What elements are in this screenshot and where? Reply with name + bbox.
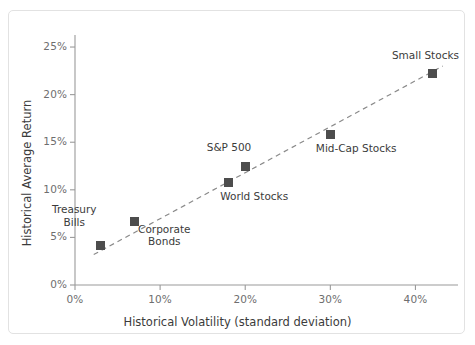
x-axis-tick-label: 0% — [50, 293, 100, 305]
y-axis-tick-label: 0% — [23, 278, 67, 290]
data-point-marker[interactable] — [96, 241, 105, 250]
data-point-label: Mid-Cap Stocks — [316, 142, 397, 155]
x-axis-tick-label: 30% — [305, 293, 355, 305]
data-point-marker[interactable] — [326, 130, 335, 139]
y-axis-tick-label: 25% — [23, 40, 67, 52]
data-point-marker[interactable] — [428, 69, 437, 78]
y-axis-title: Historical Average Return — [20, 73, 34, 273]
x-axis-tick-label: 10% — [135, 293, 185, 305]
x-axis-title: Historical Volatility (standard deviatio… — [0, 315, 475, 329]
data-point-label: World Stocks — [220, 190, 288, 203]
data-point-label: Small Stocks — [392, 49, 459, 62]
x-axis-tick-label: 20% — [220, 293, 270, 305]
data-point-label: S&P 500 — [207, 141, 252, 154]
x-axis-tick-label: 40% — [390, 293, 440, 305]
data-point-label: Corporate Bonds — [138, 223, 191, 248]
data-point-marker[interactable] — [241, 162, 250, 171]
data-point-marker[interactable] — [224, 178, 233, 187]
data-point-label: Treasury Bills — [52, 203, 97, 228]
